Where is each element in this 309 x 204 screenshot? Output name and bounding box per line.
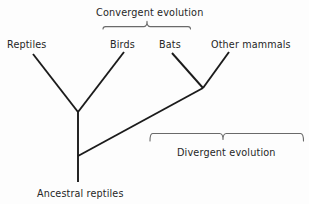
cladogram-canvas xyxy=(0,0,309,204)
tree-branches xyxy=(33,52,229,182)
branch-other-mammals xyxy=(203,52,229,88)
cladogram-figure: Convergent evolution Reptiles Birds Bats… xyxy=(0,0,309,204)
branch-reptiles xyxy=(33,54,78,112)
label-ancestral-reptiles: Ancestral reptiles xyxy=(37,188,124,199)
label-bats: Bats xyxy=(159,39,181,50)
label-divergent-evolution: Divergent evolution xyxy=(177,147,276,158)
label-convergent-evolution: Convergent evolution xyxy=(96,7,203,18)
convergent-brace-path xyxy=(103,21,191,29)
label-reptiles: Reptiles xyxy=(7,39,46,50)
convergent-brace xyxy=(103,21,191,29)
label-birds: Birds xyxy=(110,39,135,50)
divergent-brace-path xyxy=(150,134,304,142)
branch-bats xyxy=(172,53,203,88)
branch-mammal-stem xyxy=(78,88,203,156)
divergent-brace xyxy=(150,134,304,142)
label-other-mammals: Other mammals xyxy=(211,39,291,50)
branch-birds xyxy=(78,52,124,112)
